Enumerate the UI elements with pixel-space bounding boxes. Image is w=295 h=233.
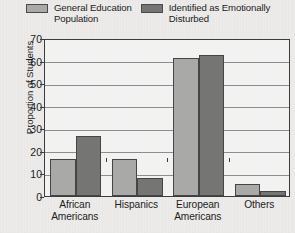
y-axis-tick-mark	[40, 39, 44, 40]
bar-series-0-category-0	[50, 159, 76, 196]
gridline	[45, 85, 289, 86]
y-axis-tick-mark	[40, 197, 44, 198]
gridline	[45, 62, 289, 63]
y-axis-tick-label: 50	[2, 78, 42, 90]
bar-series-1-category-0	[76, 136, 102, 196]
chart-legend: General Education Population Identified …	[26, 2, 292, 30]
y-axis-tick-mark	[40, 152, 44, 153]
y-axis-tick-label: 40	[2, 101, 42, 113]
y-axis-tick-label: 60	[2, 56, 42, 68]
legend-label-series-0: General Education Population	[54, 2, 132, 24]
y-axis-tick-mark	[40, 62, 44, 63]
gridline	[45, 130, 289, 131]
y-axis-tick-mark	[40, 129, 44, 130]
y-axis-tick-mark	[40, 107, 44, 108]
x-axis-tick-label: Others	[221, 199, 295, 211]
x-axis-tick-mark	[106, 158, 107, 162]
y-axis-tick-label: 20	[2, 146, 42, 158]
y-axis-tick-label: 10	[2, 168, 42, 180]
y-axis-tick-mark	[40, 84, 44, 85]
legend-label-series-1: Identified as Emotionally Disturbed	[169, 2, 271, 24]
bar-series-0-category-3	[235, 184, 261, 196]
y-axis-tick-mark	[40, 174, 44, 175]
bar-series-1-category-1	[137, 178, 163, 196]
x-axis-tick-mark	[229, 158, 230, 162]
bar-series-0-category-1	[112, 159, 138, 196]
legend-swatch-icon-series-1	[141, 4, 163, 13]
gridline	[45, 107, 289, 108]
y-axis-tick-label: 70	[2, 33, 42, 45]
bar-series-1-category-3	[260, 191, 286, 196]
legend-entry-general-education: General Education Population	[26, 2, 132, 24]
bar-series-1-category-2	[199, 55, 225, 196]
plot-area	[44, 39, 290, 197]
x-axis-tick-mark	[167, 158, 168, 162]
y-axis-tick-label: 30	[2, 123, 42, 135]
legend-entry-emotionally-disturbed: Identified as Emotionally Disturbed	[141, 2, 271, 24]
chart-figure: General Education Population Identified …	[0, 0, 295, 233]
bar-series-0-category-2	[173, 58, 199, 196]
